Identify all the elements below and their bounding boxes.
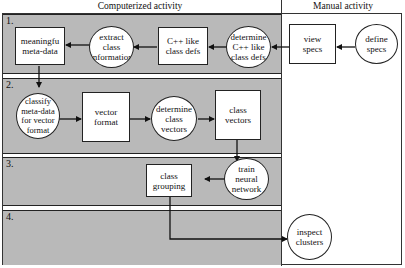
node-determine-class-vectors: determine class vectors bbox=[151, 96, 197, 141]
node-inspect-clusters: inspect clusters bbox=[287, 214, 332, 260]
band-4-number: 4. bbox=[6, 211, 14, 222]
band-1-number: 1. bbox=[6, 15, 14, 26]
band-2-number: 2. bbox=[6, 79, 14, 90]
computerized-activity-header: Computerized activity bbox=[60, 1, 220, 11]
swimlane-divider bbox=[281, 0, 282, 266]
node-classify-meta-data: classify meta-data for vector format bbox=[16, 93, 60, 139]
node-determine-cpp-like-class-defs: determine C++ like class defs bbox=[226, 26, 271, 68]
band-3-number: 3. bbox=[6, 158, 14, 169]
node-view-specs: view specs bbox=[289, 24, 336, 64]
node-extract-class-information: extract class information bbox=[89, 26, 134, 68]
manual-activity-header: Manual activity bbox=[283, 1, 403, 11]
node-define-specs: define specs bbox=[355, 24, 398, 64]
node-class-grouping: class grouping bbox=[146, 164, 192, 197]
node-cpp-like-class-defs: C++ like class defs bbox=[158, 27, 208, 65]
band-4: 4. bbox=[3, 210, 281, 265]
node-vector-format: vector format bbox=[82, 92, 130, 142]
node-train-neural-network: train neural network bbox=[224, 158, 269, 200]
node-meaningful-meta-data: meaningfu meta-data bbox=[15, 27, 65, 65]
node-class-vectors: class vectors bbox=[215, 90, 261, 140]
